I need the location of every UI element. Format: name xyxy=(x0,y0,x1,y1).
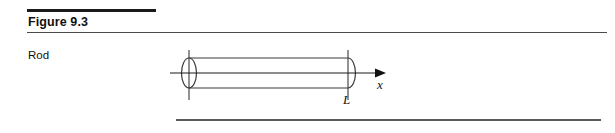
bottom-rule xyxy=(176,119,601,121)
length-label: L xyxy=(342,92,350,107)
figure-page: Figure 9.3 Rod x L xyxy=(0,0,615,133)
top-rule xyxy=(27,9,156,12)
figure-title: Figure 9.3 xyxy=(28,14,88,30)
x-axis-label: x xyxy=(376,77,383,92)
figure-caption-label: Rod xyxy=(28,48,49,62)
title-underline-rule xyxy=(27,32,607,33)
rod-diagram: x L xyxy=(170,42,400,108)
